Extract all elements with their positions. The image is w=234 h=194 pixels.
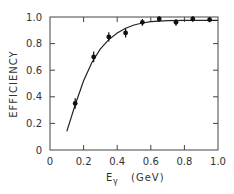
data-point	[140, 19, 145, 26]
x-tick-label: 0.2	[76, 156, 92, 167]
efficiency-chart: 00.20.40.60.81.0 00.20.40.60.81.0 EFFICI…	[0, 0, 234, 194]
data-point	[106, 32, 111, 41]
data-points	[73, 16, 212, 108]
x-tick-label: 0.4	[109, 156, 125, 167]
y-tick-label: 0.4	[26, 91, 42, 102]
y-tick-label: 1.0	[26, 12, 42, 23]
y-axis-ticks: 00.20.40.60.81.0	[26, 12, 218, 156]
x-axis-ticks: 00.20.40.60.81.0	[47, 17, 226, 167]
y-tick-label: 0.6	[26, 65, 42, 76]
data-point	[91, 52, 96, 63]
data-point	[207, 17, 212, 22]
y-tick-label: 0.8	[26, 38, 42, 49]
y-tick-label: 0	[36, 145, 42, 156]
y-tick-label: 0.2	[26, 118, 42, 129]
plot-frame	[50, 17, 218, 150]
y-axis-label: EFFICIENCY	[8, 50, 19, 117]
x-axis-label: E γ (GeV)	[106, 172, 165, 186]
x-axis-label-sub: γ	[113, 177, 119, 186]
x-tick-label: 1.0	[210, 156, 226, 167]
x-axis-label-unit: (GeV)	[131, 172, 165, 183]
x-tick-label: 0	[47, 156, 53, 167]
fit-curve	[67, 20, 218, 131]
x-tick-label: 0.8	[176, 156, 192, 167]
x-tick-label: 0.6	[143, 156, 159, 167]
